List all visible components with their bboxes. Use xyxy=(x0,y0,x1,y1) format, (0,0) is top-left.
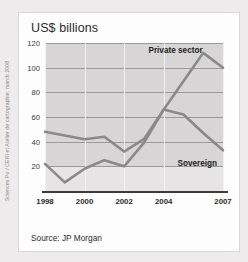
x-tick-2007: 2007 xyxy=(214,197,231,206)
y-tick-80: 80 xyxy=(32,88,40,97)
source-note: Source: JP Morgan xyxy=(31,233,102,243)
plot-area: 20406080100120 19982000200220042007 Priv… xyxy=(45,43,223,191)
x-tick-2002: 2002 xyxy=(115,197,132,206)
x-tick-2000: 2000 xyxy=(76,197,93,206)
annotation-sovereign: Sovereign xyxy=(177,158,217,167)
series-line-private-sector xyxy=(45,53,223,152)
y-tick-20: 20 xyxy=(32,162,40,171)
y-tick-40: 40 xyxy=(32,137,40,146)
figure-container: Sciences Po / CERI et Atelier de cartogr… xyxy=(0,0,248,262)
x-axis-line xyxy=(42,191,228,193)
chart-card: US$ billions 20406080100120 199820002002… xyxy=(18,12,240,252)
y-tick-100: 100 xyxy=(27,63,40,72)
annotation-private-sector: Private sector xyxy=(148,46,202,55)
credit-text: Sciences Po / CERI et Atelier de cartogr… xyxy=(4,61,10,202)
credit-strip: Sciences Po / CERI et Atelier de cartogr… xyxy=(0,0,15,262)
x-tick-2004: 2004 xyxy=(155,197,172,206)
gridline-x-2007 xyxy=(223,43,224,191)
x-tick-1998: 1998 xyxy=(36,197,53,206)
y-tick-120: 120 xyxy=(27,39,40,48)
chart-title: US$ billions xyxy=(31,21,98,35)
y-tick-60: 60 xyxy=(32,113,40,122)
series-lines xyxy=(45,43,223,191)
